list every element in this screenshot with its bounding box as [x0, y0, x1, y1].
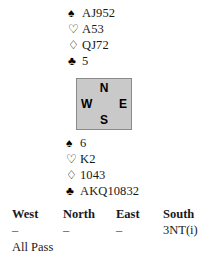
north-clubs-cards: 5 [81, 54, 88, 69]
north-clubs-row: ♣ 5 [68, 54, 115, 69]
south-diamonds-row: ♢ 1043 [66, 168, 139, 183]
south-diamonds-cards: 1043 [79, 168, 105, 183]
south-spades-row: ♠ 6 [66, 136, 139, 151]
north-hearts-cards: A53 [81, 22, 104, 37]
bid-north: – [52, 222, 104, 239]
north-spades-cards: AJ952 [81, 6, 115, 21]
bidding-table: West North East South – – – 3NT(i) All P… [0, 206, 210, 255]
bidding-all-pass: All Pass [0, 239, 210, 255]
north-diamonds-row: ♢ QJ72 [68, 38, 115, 53]
compass-west-label: W [81, 98, 92, 110]
south-hearts-cards: K2 [79, 152, 95, 167]
diamond-suit-icon: ♢ [68, 38, 81, 53]
spade-suit-icon: ♠ [66, 136, 79, 151]
south-hearts-row: ♡ K2 [66, 152, 139, 167]
south-clubs-row: ♣ AKQ10832 [66, 184, 139, 199]
bid-south: 3NT(i) [152, 222, 210, 239]
bidding-header-row: West North East South [0, 206, 210, 222]
south-hand: ♠ 6 ♡ K2 ♢ 1043 ♣ AKQ10832 [66, 136, 139, 199]
heart-suit-icon: ♡ [68, 22, 81, 37]
bidding-header-north: North [52, 206, 104, 222]
club-suit-icon: ♣ [68, 54, 81, 69]
spade-suit-icon: ♠ [68, 6, 81, 21]
bidding-header-east: East [104, 206, 152, 222]
heart-suit-icon: ♡ [66, 152, 79, 167]
north-hearts-row: ♡ A53 [68, 22, 115, 37]
south-spades-cards: 6 [79, 136, 86, 151]
compass-south-label: S [77, 114, 131, 126]
compass-north-label: N [77, 82, 131, 94]
south-clubs-cards: AKQ10832 [79, 184, 139, 199]
compass-east-label: E [119, 98, 127, 110]
bidding-row: – – – 3NT(i) [0, 222, 210, 239]
diamond-suit-icon: ♢ [66, 168, 79, 183]
club-suit-icon: ♣ [66, 184, 79, 199]
bid-west: – [0, 222, 52, 239]
north-spades-row: ♠ AJ952 [68, 6, 115, 21]
bidding-header-west: West [0, 206, 52, 222]
bidding-header-south: South [152, 206, 210, 222]
north-diamonds-cards: QJ72 [81, 38, 109, 53]
north-hand: ♠ AJ952 ♡ A53 ♢ QJ72 ♣ 5 [68, 6, 115, 69]
bid-east: – [104, 222, 152, 239]
compass-box: N W E S [76, 78, 132, 130]
